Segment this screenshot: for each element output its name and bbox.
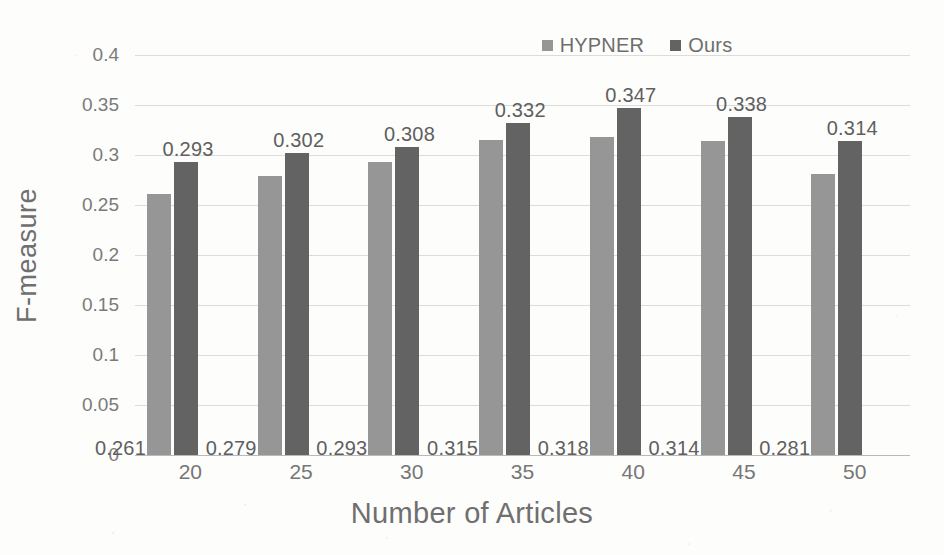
bar-value-label: 0.314: [649, 437, 700, 460]
x-tick-label: 30: [400, 460, 423, 484]
bar-group: 0.2610.293: [135, 55, 246, 455]
x-tick-label: 50: [843, 460, 866, 484]
x-tick-label: 25: [289, 460, 312, 484]
bar-hypner-45[interactable]: 0.314: [701, 141, 725, 455]
bar-value-label: 0.293: [316, 437, 367, 460]
y-tick-label: 0.2: [93, 244, 119, 266]
y-tick-label: 0.35: [82, 94, 119, 116]
bar-ours-20[interactable]: 0.293: [174, 162, 198, 455]
bar-value-label: 0.314: [827, 117, 878, 140]
bar-group: 0.2790.302: [246, 55, 357, 455]
bar-hypner-40[interactable]: 0.318: [590, 137, 614, 455]
legend-entry-ours[interactable]: Ours: [670, 34, 732, 57]
bar-value-label: 0.281: [759, 437, 810, 460]
y-tick-label: 0.4: [93, 44, 119, 66]
x-tick-label: 40: [622, 460, 645, 484]
y-tick-label: 0.3: [93, 144, 119, 166]
bar-hypner-30[interactable]: 0.293: [368, 162, 392, 455]
bar-ours-25[interactable]: 0.302: [285, 153, 309, 455]
bar-group: 0.3140.338: [689, 55, 800, 455]
bar-value-label: 0.338: [716, 93, 767, 116]
bar-chart: HYPNEROurs F-measure 00.050.10.150.20.25…: [0, 0, 944, 555]
bar-value-label: 0.318: [538, 437, 589, 460]
bar-group: 0.3180.347: [578, 55, 689, 455]
bar-value-label: 0.261: [95, 437, 146, 460]
bar-value-label: 0.315: [427, 437, 478, 460]
bar-ours-45[interactable]: 0.338: [728, 117, 752, 455]
bar-value-label: 0.279: [206, 437, 257, 460]
x-axis-tick-labels: 20253035404550: [135, 460, 910, 494]
legend-label: Ours: [688, 34, 732, 57]
bar-hypner-35[interactable]: 0.315: [479, 140, 503, 455]
bar-ours-50[interactable]: 0.314: [838, 141, 862, 455]
y-axis-tick-labels: 00.050.10.150.20.250.30.350.4: [0, 55, 127, 455]
bar-value-label: 0.332: [495, 99, 546, 122]
bar-group: 0.2930.308: [356, 55, 467, 455]
bar-hypner-50[interactable]: 0.281: [811, 174, 835, 455]
bar-ours-40[interactable]: 0.347: [617, 108, 641, 455]
chart-legend: HYPNEROurs: [0, 34, 944, 57]
plot-area: 0.2610.2930.2790.3020.2930.3080.3150.332…: [135, 55, 910, 455]
bar-ours-35[interactable]: 0.332: [506, 123, 530, 455]
bar-hypner-25[interactable]: 0.279: [258, 176, 282, 455]
bar-group: 0.3150.332: [467, 55, 578, 455]
bar-value-label: 0.347: [605, 84, 656, 107]
bar-value-label: 0.302: [273, 129, 324, 152]
bar-group: 0.2810.314: [799, 55, 910, 455]
legend-entry-hypner[interactable]: HYPNER: [542, 34, 645, 57]
x-axis-title: Number of Articles: [0, 497, 944, 530]
x-tick-label: 45: [732, 460, 755, 484]
bar-ours-30[interactable]: 0.308: [395, 147, 419, 455]
legend-swatch-ours: [670, 40, 681, 51]
legend-swatch-hypner: [542, 40, 553, 51]
y-tick-label: 0.15: [82, 294, 119, 316]
bar-hypner-20[interactable]: 0.261: [147, 194, 171, 455]
legend-label: HYPNER: [560, 34, 645, 57]
y-tick-label: 0.25: [82, 194, 119, 216]
bar-value-label: 0.308: [384, 123, 435, 146]
x-tick-label: 20: [179, 460, 202, 484]
bar-value-label: 0.293: [163, 138, 214, 161]
x-tick-label: 35: [511, 460, 534, 484]
y-tick-label: 0.1: [93, 344, 119, 366]
y-tick-label: 0.05: [82, 394, 119, 416]
